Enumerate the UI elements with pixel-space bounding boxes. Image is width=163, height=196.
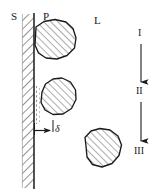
wall-hatch-fill [22,14,34,188]
label-stage-II: II [136,86,143,96]
particle-attached-top [35,20,76,60]
particle-outline [85,129,122,168]
particle-outline [41,78,76,115]
label-particle-P: P [43,11,49,22]
label-solid-S: S [11,11,17,22]
particle-in-bulk [85,129,122,168]
particle-deposition-figure: S P L δ I II III [0,0,163,196]
label-delta-thickness: δ [55,124,60,134]
boundary-layer-dashed-edge [37,86,40,124]
label-liquid-L: L [94,15,101,26]
label-stage-III: III [134,146,144,156]
label-stage-I: I [138,28,141,38]
particle-outline [35,20,76,60]
delta-dimension-annotation [35,120,54,135]
solid-wall-region [22,13,34,189]
particle-near-wall [41,78,76,115]
